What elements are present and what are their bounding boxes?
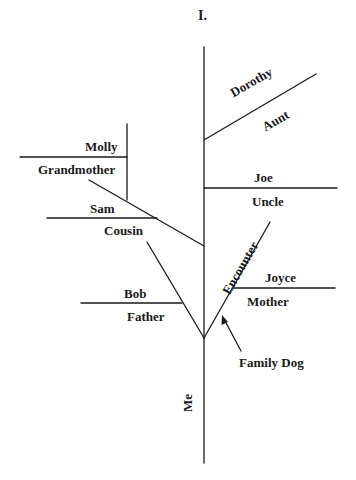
diagram-title: I. <box>198 9 207 23</box>
family-dog-arrow-line <box>224 319 241 351</box>
label-father: Father <box>127 310 165 323</box>
tree-lines <box>0 0 356 480</box>
label-bob: Bob <box>124 287 146 300</box>
family-tree-diagram: I. Dorothy Aunt Molly Grandmother Joe Un… <box>0 0 356 480</box>
label-cousin: Cousin <box>104 224 143 237</box>
label-me: Me <box>181 394 194 412</box>
label-molly: Molly <box>85 140 118 153</box>
label-mother: Mother <box>247 295 289 308</box>
label-family-dog: Family Dog <box>239 356 304 369</box>
label-joyce: Joyce <box>265 271 296 284</box>
label-sam: Sam <box>90 202 115 215</box>
label-joe: Joe <box>254 171 273 184</box>
label-uncle: Uncle <box>252 195 284 208</box>
label-grandmother: Grandmother <box>38 163 115 176</box>
